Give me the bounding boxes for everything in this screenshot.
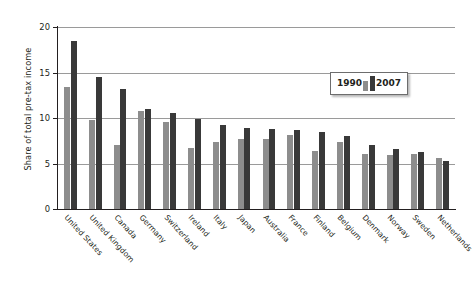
bar-sweden-2007: [418, 152, 424, 209]
bar-denmark-2007: [369, 145, 375, 209]
bar-germany-1990: [138, 111, 144, 209]
x-label-united-kingdom: United Kingdom: [88, 213, 137, 264]
bar-finland-1990: [312, 151, 318, 209]
y-tick-label-0: 0: [26, 204, 50, 214]
bar-united-kingdom-1990: [89, 120, 95, 209]
y-tick-label-5: 5: [26, 159, 50, 169]
bar-chart-figure: Share of total pre-tax income 05101520 U…: [0, 0, 473, 282]
bar-japan-1990: [238, 139, 244, 209]
x-label-sweden: Sweden: [410, 213, 437, 241]
x-label-italy: Italy: [212, 213, 230, 231]
bar-ireland-1990: [188, 148, 194, 209]
bar-belgium-2007: [344, 136, 350, 209]
x-label-japan: Japan: [237, 213, 258, 235]
bar-norway-2007: [393, 149, 399, 209]
y-tick-label-10: 10: [26, 113, 50, 123]
bar-australia-2007: [269, 129, 275, 209]
bar-united-states-2007: [71, 41, 77, 209]
y-tick-mark-10: [53, 118, 57, 119]
bar-switzerland-1990: [163, 122, 169, 209]
x-label-france: France: [286, 213, 310, 238]
x-axis-line: [57, 209, 456, 210]
x-label-belgium: Belgium: [336, 213, 364, 242]
bar-canada-2007: [120, 89, 126, 209]
y-tick-mark-5: [53, 164, 57, 165]
legend-swatch-2007: [370, 76, 375, 91]
y-axis-title: Share of total pre-tax income: [23, 19, 33, 199]
bar-united-states-1990: [64, 87, 70, 209]
legend-swatch-1990: [363, 81, 368, 91]
y-tick-label-20: 20: [26, 22, 50, 32]
bar-australia-1990: [263, 139, 269, 209]
bar-japan-2007: [244, 128, 250, 209]
x-label-netherlands: Netherlands: [435, 213, 473, 253]
x-label-finland: Finland: [311, 213, 336, 239]
bar-netherlands-2007: [443, 161, 449, 209]
bar-ireland-2007: [195, 119, 201, 209]
bar-united-kingdom-2007: [96, 77, 102, 209]
y-tick-mark-0: [53, 209, 57, 210]
bar-belgium-1990: [337, 142, 343, 209]
y-tick-mark-15: [53, 73, 57, 74]
bar-denmark-1990: [362, 154, 368, 210]
bar-netherlands-1990: [436, 158, 442, 209]
bar-italy-2007: [220, 125, 226, 209]
x-label-ireland: Ireland: [187, 213, 212, 239]
bar-norway-1990: [387, 155, 393, 209]
y-tick-label-15: 15: [26, 68, 50, 78]
bar-finland-2007: [319, 132, 325, 209]
bar-switzerland-2007: [170, 113, 176, 209]
bar-france-2007: [294, 130, 300, 209]
legend-label-1990: 1990: [337, 79, 362, 88]
y-tick-mark-20: [53, 27, 57, 28]
bar-italy-1990: [213, 142, 219, 209]
plot-area: [58, 27, 455, 209]
bar-sweden-1990: [411, 154, 417, 209]
bar-france-1990: [287, 135, 293, 209]
legend-label-2007: 2007: [376, 79, 401, 88]
chart-legend: 1990 2007: [330, 72, 408, 95]
gridline-10: [58, 118, 455, 119]
bar-germany-2007: [145, 109, 151, 209]
gridline-20: [58, 27, 455, 28]
bar-canada-1990: [114, 145, 120, 209]
